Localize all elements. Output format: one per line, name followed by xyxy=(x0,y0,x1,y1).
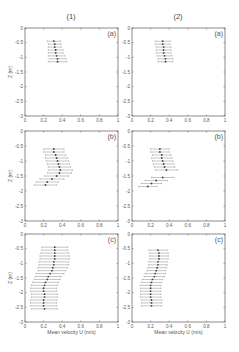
x-tick-label: 0 xyxy=(131,223,134,228)
data-point xyxy=(141,302,161,304)
y-tick-label: -1.5 xyxy=(15,276,23,281)
mean-marker xyxy=(157,261,159,263)
mean-marker xyxy=(43,299,45,301)
y-tick-label: -1 xyxy=(19,261,24,266)
x-tick-label: 0.4 xyxy=(166,118,173,123)
data-point xyxy=(45,175,69,177)
chart-panel: 00.20.40.60.810-0.5-1-1.5-2-2.5-3(b) xyxy=(122,129,227,228)
data-point xyxy=(47,172,71,174)
mean-marker xyxy=(159,148,161,150)
y-tick-label: -2.5 xyxy=(15,99,23,104)
panel-label: (a) xyxy=(214,30,223,38)
x-tick-label: 0.8 xyxy=(203,118,210,123)
data-point xyxy=(40,255,70,257)
data-point xyxy=(142,279,162,281)
mean-marker xyxy=(51,270,53,272)
mean-marker xyxy=(54,252,56,254)
mean-marker xyxy=(158,255,160,257)
y-tick-label: -2 xyxy=(19,84,24,89)
mean-marker xyxy=(163,49,165,51)
y-tick-label: -2 xyxy=(126,189,131,194)
x-tick-label: 0.6 xyxy=(185,324,192,329)
data-point xyxy=(145,180,167,182)
mean-marker xyxy=(45,184,47,186)
data-point xyxy=(149,249,168,251)
data-point xyxy=(150,255,169,257)
data-point xyxy=(148,267,167,269)
data-point xyxy=(139,186,158,188)
data-point xyxy=(32,296,58,298)
x-tick-label: 0.4 xyxy=(59,223,66,228)
mean-marker xyxy=(150,284,152,286)
data-point xyxy=(31,287,57,289)
y-tick-label: 0 xyxy=(20,26,23,31)
data-point xyxy=(150,258,169,260)
x-tick-label: 0 xyxy=(24,118,27,123)
y-tick-label: -1 xyxy=(126,55,131,60)
data-point xyxy=(48,49,63,51)
mean-marker xyxy=(163,46,165,48)
mean-marker xyxy=(157,249,159,251)
x-tick-label: 0 xyxy=(24,223,27,228)
x-tick-label: 0.8 xyxy=(96,223,103,228)
data-point xyxy=(140,284,160,286)
y-tick-label: -0.5 xyxy=(122,40,130,45)
y-tick-label: 0 xyxy=(127,26,130,31)
mean-marker xyxy=(59,169,61,171)
data-point xyxy=(141,299,161,301)
mean-marker xyxy=(44,296,46,298)
mean-marker xyxy=(156,267,158,269)
y-tick-label: -1.5 xyxy=(122,174,130,179)
data-point xyxy=(39,261,69,263)
panel-label: (c) xyxy=(108,236,116,244)
x-axis-label: Mean velocity U (m/s) xyxy=(154,329,203,335)
mean-marker xyxy=(157,264,159,266)
panel-label: (a) xyxy=(107,30,116,38)
mean-marker xyxy=(59,172,61,174)
mean-marker xyxy=(58,163,60,165)
y-tick-label: -2.5 xyxy=(122,99,130,104)
mean-marker xyxy=(53,264,55,266)
y-tick-label: -0.5 xyxy=(15,246,23,251)
data-point xyxy=(44,148,64,150)
mean-marker xyxy=(54,46,56,48)
y-tick-label: -2.5 xyxy=(15,204,23,209)
data-point xyxy=(31,290,57,292)
y-tick-label: -3 xyxy=(19,320,24,325)
x-tick-label: 1 xyxy=(117,118,120,123)
data-point xyxy=(45,157,67,159)
axes-frame xyxy=(132,28,225,116)
data-point xyxy=(147,270,166,272)
data-point xyxy=(145,273,165,275)
mean-marker xyxy=(55,154,57,156)
mean-marker xyxy=(150,287,152,289)
data-point xyxy=(48,43,61,45)
data-point xyxy=(48,61,67,63)
data-point xyxy=(40,178,64,180)
x-axis-label: Mean velocity U (m/s) xyxy=(47,329,96,335)
data-point xyxy=(155,169,177,171)
axes-frame xyxy=(25,28,118,116)
data-point xyxy=(156,49,171,51)
data-point xyxy=(49,58,66,60)
y-tick-label: -0.5 xyxy=(15,144,23,149)
y-tick-label: -3 xyxy=(126,219,131,224)
mean-marker xyxy=(59,166,61,168)
y-tick-label: -2 xyxy=(19,189,24,194)
data-point xyxy=(151,151,170,153)
mean-marker xyxy=(53,40,55,42)
mean-marker xyxy=(162,160,164,162)
mean-marker xyxy=(151,302,153,304)
mean-marker xyxy=(162,40,164,42)
y-tick-label: -2.5 xyxy=(122,204,130,209)
data-point xyxy=(31,302,57,304)
chart-panel: 00.20.40.60.810-0.5-1-1.5-2-2.5-3Z (m)(b… xyxy=(7,129,120,228)
mean-marker xyxy=(56,157,58,159)
y-tick-label: -3 xyxy=(19,219,24,224)
panel-label: (b) xyxy=(214,133,223,141)
data-point xyxy=(48,52,63,54)
panel-label: (c) xyxy=(215,236,223,244)
mean-marker xyxy=(55,49,57,51)
y-tick-label: -1.5 xyxy=(15,174,23,179)
data-point xyxy=(157,55,172,57)
